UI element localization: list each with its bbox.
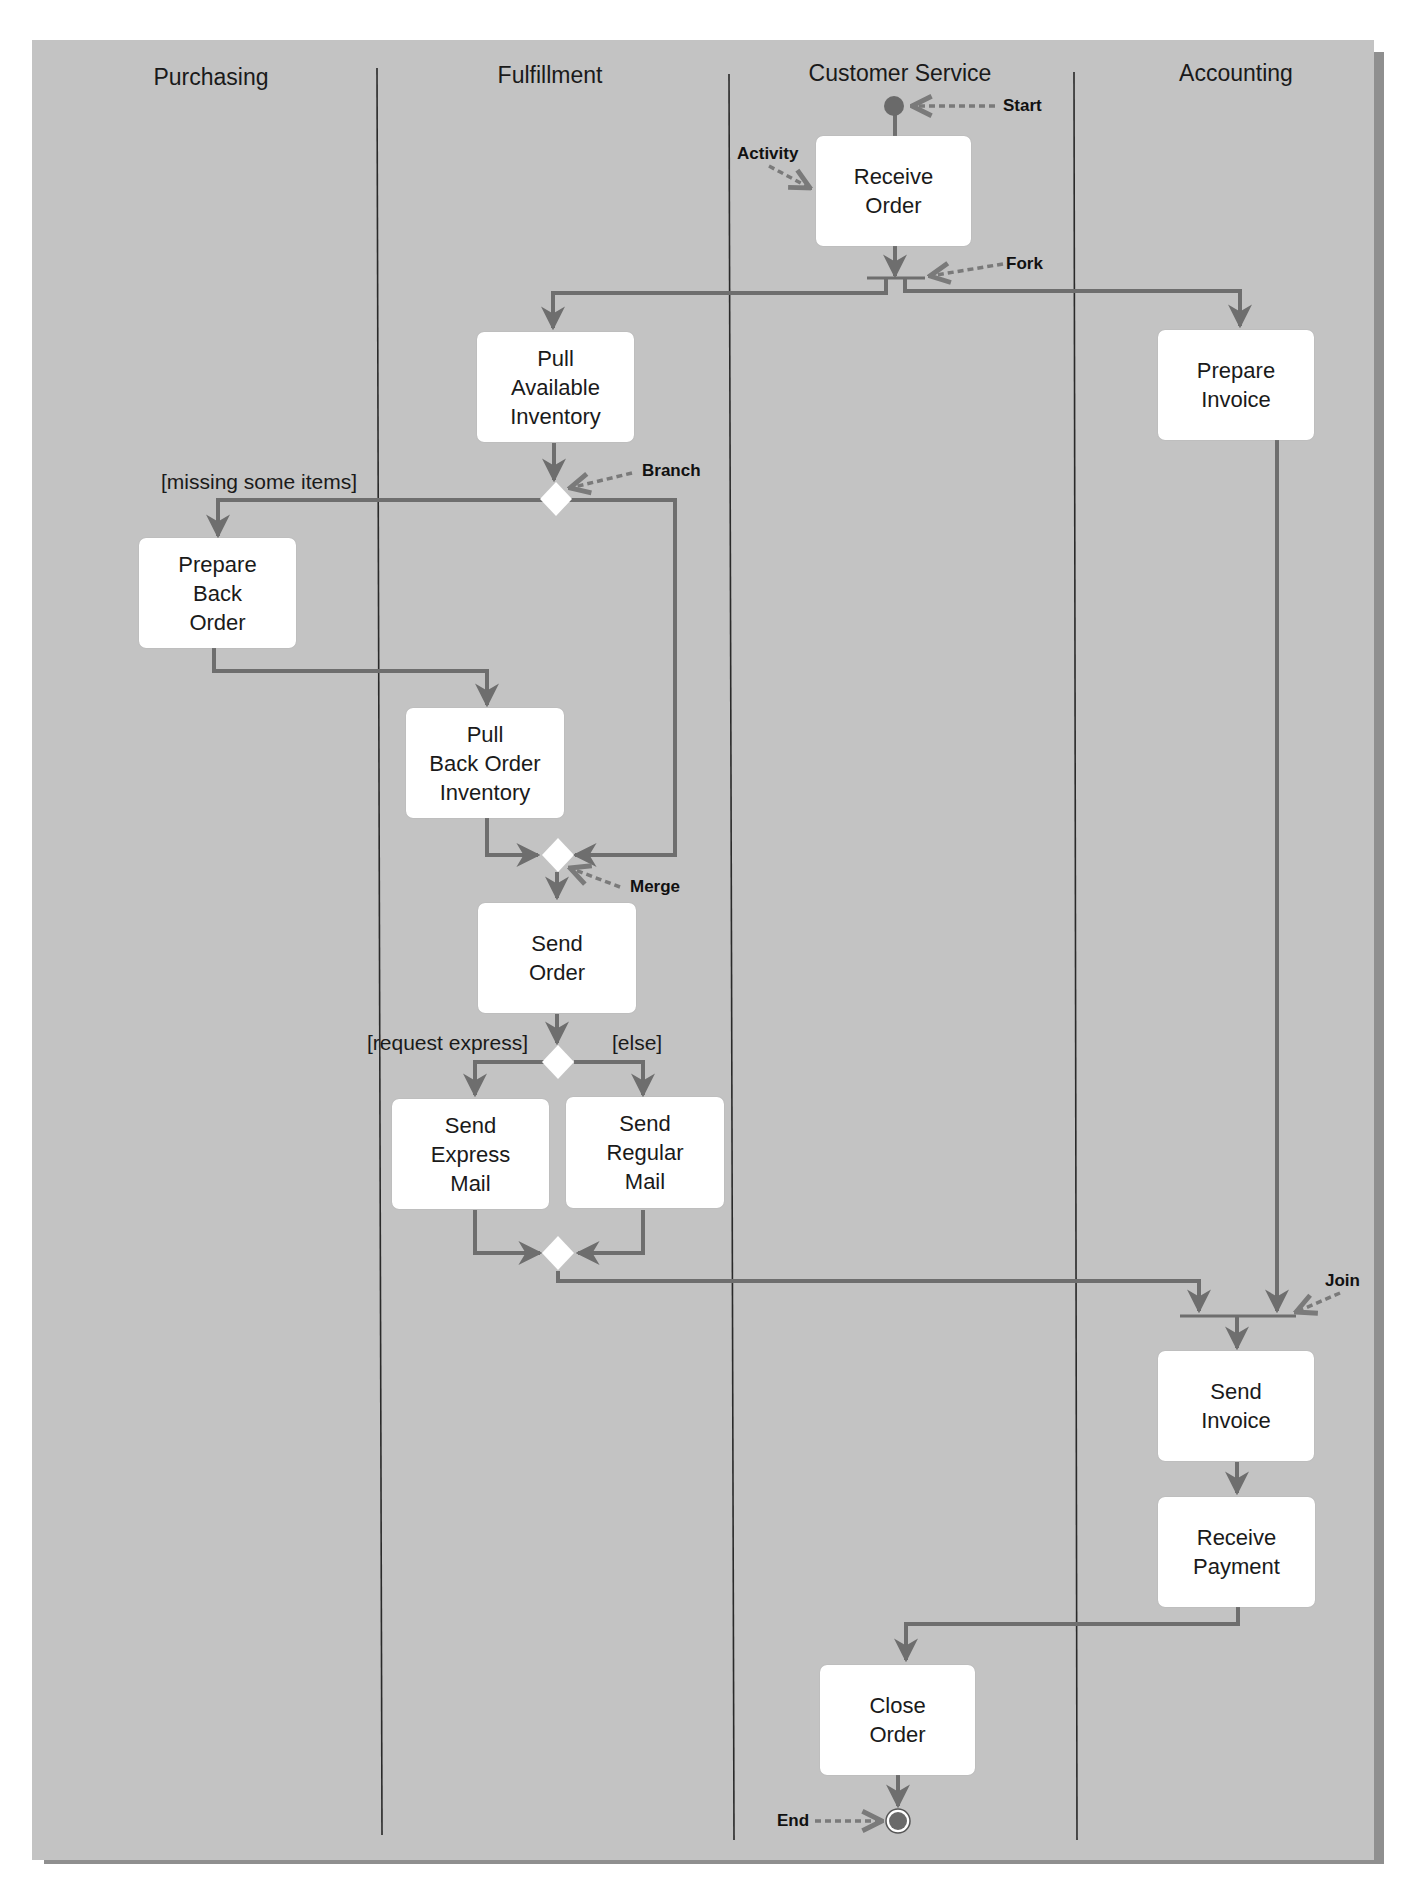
activity-send-order[interactable]: Send Order	[478, 903, 636, 1013]
callout-activity: Activity	[737, 144, 798, 164]
activity-receive-order[interactable]: Receive Order	[816, 136, 971, 246]
activity-send-regular-mail[interactable]: Send Regular Mail	[566, 1097, 724, 1208]
callout-merge: Merge	[630, 877, 680, 897]
activity-send-express-mail[interactable]: Send Express Mail	[392, 1099, 549, 1209]
lane-title-customer-service: Customer Service	[750, 60, 1050, 87]
callout-fork: Fork	[1006, 254, 1043, 274]
activity-prepare-invoice[interactable]: Prepare Invoice	[1158, 330, 1314, 440]
activity-pull-back-order-inventory[interactable]: Pull Back Order Inventory	[406, 708, 564, 818]
callout-branch: Branch	[642, 461, 701, 481]
activity-send-invoice[interactable]: Send Invoice	[1158, 1351, 1314, 1461]
callout-join: Join	[1325, 1271, 1360, 1291]
guard-else: [else]	[612, 1031, 662, 1055]
start-node	[884, 96, 904, 116]
lane-title-accounting: Accounting	[1086, 60, 1386, 87]
callout-end: End	[777, 1811, 809, 1831]
guard-request-express: [request express]	[367, 1031, 528, 1055]
activity-close-order[interactable]: Close Order	[820, 1665, 975, 1775]
activity-prepare-back-order[interactable]: Prepare Back Order	[139, 538, 296, 648]
lane-title-fulfillment: Fulfillment	[400, 62, 700, 89]
callout-start: Start	[1003, 96, 1042, 116]
lane-title-purchasing: Purchasing	[61, 64, 361, 91]
activity-pull-available-inventory[interactable]: Pull Available Inventory	[477, 332, 634, 442]
activity-receive-payment[interactable]: Receive Payment	[1158, 1497, 1315, 1607]
guard-missing-items: [missing some items]	[161, 470, 357, 494]
